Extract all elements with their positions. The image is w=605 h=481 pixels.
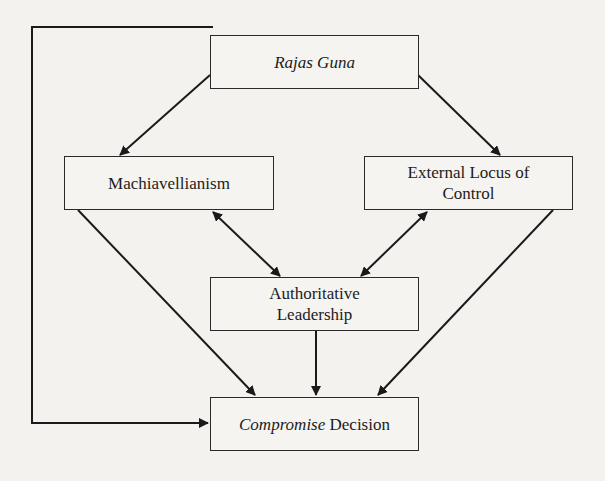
node-rajas-guna: Rajas Guna <box>210 35 419 89</box>
node-machiavellianism: Machiavellianism <box>64 156 274 210</box>
node-machiavellianism-label: Machiavellianism <box>108 173 230 194</box>
edge-rajas-to-external-locus <box>418 75 500 155</box>
node-external-locus-of-control: External Locus of Control <box>364 156 573 210</box>
node-external-locus-line2: Control <box>443 183 495 204</box>
node-compromise-plain: Decision <box>325 415 390 434</box>
edge-machiavellianism-authoritative <box>213 212 280 276</box>
node-rajas-guna-label: Rajas Guna <box>274 52 355 73</box>
node-authoritative-line2: Leadership <box>277 304 353 325</box>
edge-rajas-to-compromise <box>32 27 213 423</box>
edge-external-authoritative <box>361 212 427 276</box>
node-compromise-italic: Compromise <box>239 415 325 434</box>
node-external-locus-line1: External Locus of <box>408 162 530 183</box>
node-authoritative-leadership: Authoritative Leadership <box>210 277 419 331</box>
node-compromise-decision: Compromise Decision <box>210 397 419 451</box>
edge-rajas-to-machiavellianism <box>120 75 210 155</box>
node-authoritative-line1: Authoritative <box>269 283 360 304</box>
